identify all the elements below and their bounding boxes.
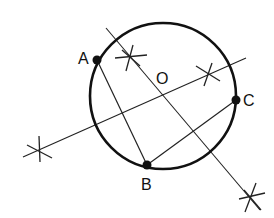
label-B: B (141, 176, 152, 193)
label-C: C (243, 92, 255, 109)
point-B (143, 161, 152, 170)
point-C (232, 96, 241, 105)
arc-mark-4 (239, 183, 265, 212)
label-A: A (78, 50, 89, 67)
label-O: O (156, 70, 168, 87)
arc-mark-2 (196, 63, 220, 86)
bisector-line-2 (106, 28, 260, 210)
arc-mark-1 (115, 45, 147, 71)
bisector-line-1 (23, 58, 246, 157)
geometry-diagram: A B C O (0, 0, 274, 218)
segment-AB (97, 60, 147, 165)
arc-mark-3 (27, 136, 52, 162)
segment-BC (147, 100, 236, 165)
point-A (93, 56, 102, 65)
